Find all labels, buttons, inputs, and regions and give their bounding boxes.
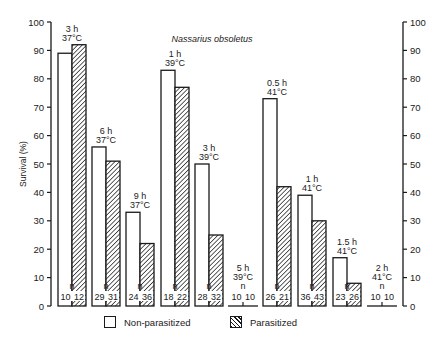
y-tick-label-right: 80 (410, 73, 421, 84)
legend-swatch-white (104, 316, 116, 328)
n-marker: n (309, 281, 314, 291)
y-axis-label: Survival (%) (18, 141, 28, 187)
n-value-non-parasitized: 10 (231, 292, 241, 302)
legend: Non-parasitized Parasitized (0, 316, 441, 336)
n-marker: n (206, 281, 211, 291)
y-tick-label-left: 50 (33, 159, 44, 170)
y-tick-label-left: 100 (28, 17, 44, 28)
group-label-temp: 39°C (199, 152, 220, 162)
n-marker: n (379, 281, 384, 291)
group-label-temp: 39°C (165, 58, 186, 68)
legend-label: Parasitized (250, 317, 297, 328)
bars: n1012n2931n2436n1822n2832n1010n2621n3643… (58, 45, 397, 306)
y-tick-label-right: 30 (410, 215, 421, 226)
bar-parasitized (72, 45, 86, 306)
group-label-temp: 41°C (337, 246, 358, 256)
group-label-temp: 41°C (372, 272, 393, 282)
bar-group: n1010 (228, 281, 258, 306)
y-tick-label-right: 40 (410, 187, 421, 198)
y-tick-label-right: 100 (410, 17, 426, 28)
n-value-non-parasitized: 10 (60, 292, 70, 302)
group-label-temp: 41°C (267, 87, 288, 97)
axes: 0010102020303040405050606070708080909010… (28, 17, 426, 312)
n-value-parasitized: 31 (108, 292, 118, 302)
bar-group: n2832 (195, 164, 223, 306)
n-value-parasitized: 36 (142, 292, 152, 302)
y-tick-label-right: 20 (410, 244, 421, 255)
y-tick-label-left: 30 (33, 215, 44, 226)
n-value-parasitized: 32 (211, 292, 221, 302)
y-tick-label-right: 60 (410, 130, 421, 141)
bar-group: n2621 (263, 99, 291, 306)
y-tick-label-left: 80 (33, 73, 44, 84)
bar-group: n1010 (367, 281, 397, 306)
n-marker: n (103, 281, 108, 291)
legend-swatch-hatched (230, 316, 242, 328)
legend-item-non-parasitized: Non-parasitized (104, 316, 191, 328)
n-value-non-parasitized: 36 (300, 292, 310, 302)
group-label-temp: 37°C (96, 135, 117, 145)
y-tick-label-left: 10 (33, 272, 44, 283)
n-value-parasitized: 22 (177, 292, 187, 302)
chart-title: Nassarius obsoletus (171, 34, 253, 44)
survival-bar-chart: 0010102020303040405050606070708080909010… (0, 0, 441, 351)
y-tick-label-left: 0 (39, 301, 44, 312)
n-value-parasitized: 43 (314, 292, 324, 302)
n-value-non-parasitized: 24 (128, 292, 138, 302)
bar-group: n2326 (333, 258, 361, 306)
bar-non-parasitized (161, 70, 175, 306)
y-tick-label-left: 20 (33, 244, 44, 255)
y-tick-label-right: 0 (410, 301, 415, 312)
n-value-parasitized: 21 (279, 292, 289, 302)
n-value-non-parasitized: 28 (197, 292, 207, 302)
y-tick-label-left: 70 (33, 102, 44, 113)
group-label-temp: 39°C (233, 272, 254, 282)
n-value-parasitized: 10 (245, 292, 255, 302)
bar-group: n2931 (92, 147, 120, 306)
n-marker: n (240, 281, 245, 291)
y-tick-label-right: 50 (410, 159, 421, 170)
y-tick-label-left: 60 (33, 130, 44, 141)
n-marker: n (172, 281, 177, 291)
y-tick-label-right: 70 (410, 102, 421, 113)
n-marker: n (274, 281, 279, 291)
y-tick-label-right: 10 (410, 272, 421, 283)
n-value-non-parasitized: 18 (163, 292, 173, 302)
n-value-non-parasitized: 29 (94, 292, 104, 302)
n-value-non-parasitized: 26 (265, 292, 275, 302)
n-value-non-parasitized: 23 (335, 292, 345, 302)
n-marker: n (137, 281, 142, 291)
bar-non-parasitized (58, 53, 72, 306)
y-tick-label-left: 90 (33, 45, 44, 56)
n-value-parasitized: 10 (384, 292, 394, 302)
bar-group: n3643 (298, 195, 326, 306)
n-marker: n (69, 281, 74, 291)
bar-group: n1822 (161, 70, 189, 306)
n-value-parasitized: 12 (74, 292, 84, 302)
group-label-temp: 37°C (62, 33, 83, 43)
n-value-non-parasitized: 10 (370, 292, 380, 302)
y-tick-label-left: 40 (33, 187, 44, 198)
n-value-parasitized: 26 (349, 292, 359, 302)
y-tick-label-right: 90 (410, 45, 421, 56)
group-label-temp: 41°C (302, 183, 323, 193)
legend-item-parasitized: Parasitized (230, 316, 297, 328)
n-marker: n (344, 281, 349, 291)
bar-group: n1012 (58, 45, 86, 306)
bar-parasitized (175, 87, 189, 306)
legend-label: Non-parasitized (124, 317, 191, 328)
bar-non-parasitized (263, 99, 277, 306)
bar-group: n2436 (126, 212, 154, 306)
group-label-temp: 37°C (130, 200, 151, 210)
